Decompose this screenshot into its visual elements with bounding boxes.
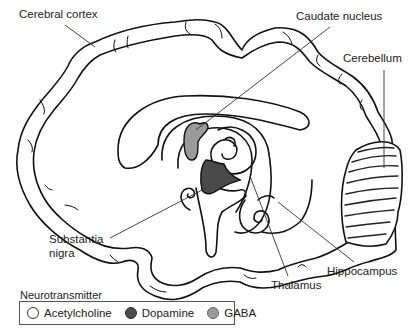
- brain-diagram: [0, 0, 417, 336]
- corpus-callosum: [118, 96, 309, 169]
- legend-label: Acetylcholine: [44, 307, 112, 319]
- legend-label: Dopamine: [142, 307, 194, 319]
- brainstem: [181, 188, 194, 210]
- legend-item-dopamine: Dopamine: [125, 307, 194, 319]
- label-substantia-nigra-line2: nigra: [49, 247, 75, 260]
- cerebellum-shape: [342, 142, 403, 246]
- caudate-nucleus-shape: [184, 123, 208, 160]
- acetylcholine-swatch-icon: [27, 307, 39, 319]
- leader-caudate-nucleus: [196, 27, 330, 130]
- label-cerebral-cortex: Cerebral cortex: [19, 8, 98, 21]
- legend-title: Neurotransmitter: [20, 289, 102, 301]
- substantia-nigra-shape: [201, 160, 240, 194]
- leader-cerebral-cortex: [65, 25, 95, 47]
- label-caudate-nucleus: Caudate nucleus: [296, 10, 382, 23]
- dopamine-swatch-icon: [125, 307, 137, 319]
- label-thalamus: Thalamus: [271, 279, 322, 292]
- legend-item-gaba: GABA: [207, 307, 256, 319]
- leader-substantia-nigra: [110, 188, 206, 238]
- label-cerebellum: Cerebellum: [343, 52, 402, 65]
- label-hippocampus: Hippocampus: [327, 265, 397, 278]
- legend-label: GABA: [224, 307, 256, 319]
- legend: Acetylcholine Dopamine GABA: [19, 301, 235, 325]
- legend-item-acetylcholine: Acetylcholine: [27, 307, 112, 319]
- gaba-swatch-icon: [207, 307, 219, 319]
- label-substantia-nigra-line1: Substantia: [49, 233, 103, 246]
